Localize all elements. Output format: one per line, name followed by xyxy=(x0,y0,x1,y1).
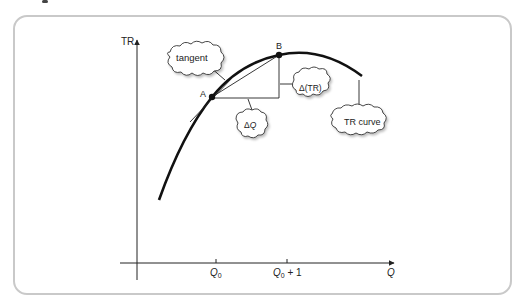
tick-label-q0-plus-1: Q0 + 1 xyxy=(273,267,302,279)
point-a-label: A xyxy=(200,89,206,99)
point-b-label: B xyxy=(276,41,282,51)
delta-tr-callout-text: Δ(TR) xyxy=(299,83,322,93)
point-a xyxy=(209,94,215,100)
x-axis-label: Q xyxy=(387,267,395,278)
tick-label-q0: Q0 xyxy=(210,267,222,279)
tr-curve-callout-text: TR curve xyxy=(344,117,381,127)
y-axis-label: TR xyxy=(121,36,134,47)
delta-q-callout-pointer xyxy=(248,99,252,110)
tangent-callout-text: tangent xyxy=(176,52,208,63)
point-b xyxy=(276,52,282,58)
delta-q-callout-text: ΔQ xyxy=(244,120,257,130)
tr-diagram: TR Q Q0 Q0 + 1 A B tangent Δ(TR) ΔQ TR c… xyxy=(0,0,529,303)
